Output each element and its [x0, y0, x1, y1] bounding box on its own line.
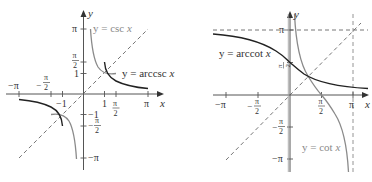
svg-text:π: π	[113, 99, 117, 108]
right-y-tick-pi: π	[279, 24, 284, 35]
svg-text:π: π	[319, 97, 323, 106]
left-y-axis-label: y	[87, 7, 93, 19]
left-x-tick-one: 1	[102, 98, 107, 109]
left-x-tick-pi: π	[144, 98, 149, 109]
left-x-axis-label: x	[159, 97, 165, 109]
cot-label: y = cot x	[302, 141, 340, 153]
svg-text:2: 2	[95, 126, 99, 135]
right-y-axis-label: y	[293, 8, 299, 20]
left-y-tick-one: 1	[74, 68, 79, 79]
svg-text:−: −	[247, 101, 252, 111]
right-y-tick-pi-half: π 2	[276, 62, 292, 69]
csc-curve-lower	[51, 114, 77, 159]
svg-text:π: π	[44, 73, 48, 82]
right-x-axis-label: x	[364, 98, 370, 110]
arccsc-label: y = arccsc x	[122, 67, 174, 79]
right-x-tick-neg-pi: −π	[215, 99, 226, 110]
left-y-tick-neg-pi: −π	[88, 152, 99, 163]
svg-text:−: −	[36, 80, 41, 90]
left-x-tick-neg-pi-half: − π 2	[36, 73, 50, 92]
svg-text:−: −	[272, 122, 277, 132]
svg-text:2: 2	[279, 127, 283, 136]
svg-text:π: π	[95, 116, 99, 125]
left-x-tick-neg-one: −1	[56, 98, 67, 109]
right-y-tick-neg-pi-half: − π 2	[272, 117, 285, 136]
csc-curve-upper	[91, 29, 117, 74]
right-x-tick-pi-half: π 2	[318, 97, 325, 116]
left-panel: y x π π 2 1 −1 − π 2 −π −π − π 2 −1 1 π …	[6, 7, 174, 170]
svg-text:2: 2	[114, 109, 118, 118]
svg-text:2: 2	[44, 83, 48, 92]
arccot-label: y = arccot x	[219, 47, 271, 59]
csc-label: y = csc x	[93, 22, 132, 34]
inverse-trig-diagram: y x π π 2 1 −1 − π 2 −π −π − π 2 −1 1 π …	[0, 0, 372, 182]
svg-text:π: π	[73, 51, 77, 60]
right-x-tick-neg-pi-half: − π 2	[247, 97, 261, 116]
right-identity-line	[226, 23, 361, 160]
left-y-axis-arrow-icon	[81, 10, 87, 17]
right-y-tick-neg-pi: −π	[272, 153, 283, 164]
right-panel: y x π π 2 − π 2 −π −π − π 2 π 2 π y =	[213, 8, 370, 172]
left-y-tick-pi: π	[72, 23, 77, 34]
svg-text:2: 2	[319, 107, 323, 116]
svg-text:π: π	[255, 97, 259, 106]
svg-text:2: 2	[284, 64, 292, 68]
svg-text:π: π	[279, 117, 283, 126]
right-x-tick-pi: π	[349, 99, 354, 110]
svg-text:2: 2	[255, 107, 259, 116]
left-x-tick-pi-half: π 2	[113, 99, 120, 118]
svg-text:−: −	[88, 120, 93, 130]
left-x-tick-neg-pi: −π	[8, 80, 19, 91]
